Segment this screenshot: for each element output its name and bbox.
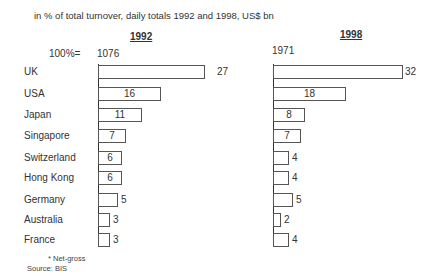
bar-value: 8 bbox=[273, 109, 305, 120]
bar-value: 4 bbox=[292, 152, 298, 163]
category-label: UK bbox=[24, 66, 38, 77]
bar-value: 18 bbox=[273, 88, 346, 99]
total-prefix: 100%= bbox=[49, 48, 80, 59]
bar-1998 bbox=[273, 233, 289, 247]
bar-value: 11 bbox=[98, 109, 142, 120]
bar-value: 7 bbox=[98, 130, 126, 141]
category-label: France bbox=[24, 234, 55, 245]
bar-1992 bbox=[98, 193, 118, 207]
bar-value: 2 bbox=[284, 214, 290, 225]
footnote: * Net-gross bbox=[48, 254, 86, 263]
chart-subtitle: in % of total turnover, daily totals 199… bbox=[34, 10, 274, 21]
bar-value: 5 bbox=[121, 194, 127, 205]
bar-value: 3 bbox=[113, 214, 119, 225]
bar-value: 4 bbox=[292, 172, 298, 183]
source-note: Source: BIS bbox=[27, 264, 67, 273]
bar-1998 bbox=[273, 213, 281, 227]
total-1992: 1076 bbox=[97, 48, 119, 59]
total-1998: 1971 bbox=[272, 45, 294, 56]
bar-1992 bbox=[98, 65, 205, 79]
category-label: Hong Kong bbox=[24, 172, 74, 183]
bar-value: 27 bbox=[217, 66, 228, 77]
bar-value: 32 bbox=[405, 66, 416, 77]
category-label: Japan bbox=[24, 109, 51, 120]
category-label: Australia bbox=[24, 214, 63, 225]
panel-title-1992: 1992 bbox=[130, 31, 152, 42]
category-label: Germany bbox=[24, 194, 65, 205]
category-label: Singapore bbox=[24, 130, 70, 141]
bar-1998 bbox=[273, 193, 293, 207]
bar-value: 3 bbox=[113, 234, 119, 245]
bar-value: 6 bbox=[98, 152, 122, 163]
bar-value: 16 bbox=[98, 88, 161, 99]
bar-value: 7 bbox=[273, 130, 301, 141]
bar-value: 6 bbox=[98, 172, 122, 183]
bar-value: 4 bbox=[292, 234, 298, 245]
bar-1998 bbox=[273, 65, 403, 79]
bar-1992 bbox=[98, 233, 110, 247]
category-label: USA bbox=[24, 88, 45, 99]
category-label: Switzerland bbox=[24, 152, 76, 163]
bar-1998 bbox=[273, 151, 289, 165]
bar-1992 bbox=[98, 213, 110, 227]
bar-1998 bbox=[273, 171, 289, 185]
panel-title-1998: 1998 bbox=[340, 29, 362, 40]
bar-value: 5 bbox=[296, 194, 302, 205]
